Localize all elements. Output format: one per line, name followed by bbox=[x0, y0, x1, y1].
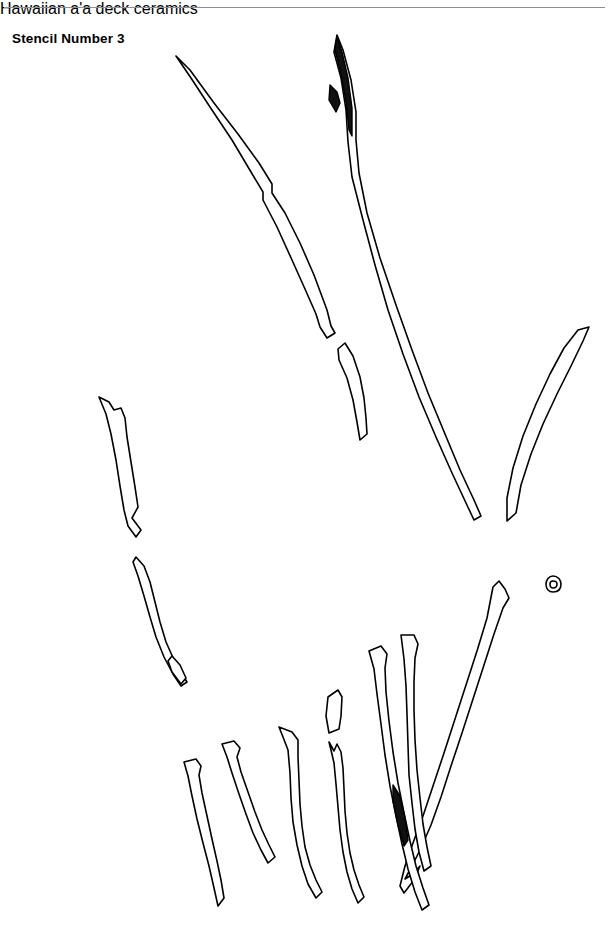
fragment-long-sliver-bottom-right bbox=[400, 581, 509, 893]
fragment-small-quad-bottom bbox=[326, 690, 342, 733]
fragment-sliver-bottom-extra bbox=[168, 656, 186, 684]
fragment-sliver-bottom-2 bbox=[222, 741, 275, 863]
fragment-sliver-bottom-4 bbox=[369, 646, 429, 910]
fragment-short-sliver-center bbox=[338, 343, 367, 440]
fragment-sliver-bottom-3 bbox=[279, 727, 322, 898]
stencil-line-art bbox=[0, 0, 613, 937]
fragment-needle-bottom-center bbox=[329, 742, 364, 903]
fragment-sliver-bottom-1 bbox=[184, 759, 224, 906]
fragment-long-sliver-upper-left bbox=[176, 56, 335, 338]
fragment-sliver-left-upper bbox=[99, 397, 141, 537]
stencil-figure-plate bbox=[0, 0, 613, 937]
fragment-dark-notch-upper-center bbox=[329, 85, 340, 112]
fragment-curved-sliver-right bbox=[507, 327, 589, 521]
fragment-long-sliver-upper-center bbox=[334, 35, 481, 520]
fragment-tiny-ring bbox=[546, 576, 561, 592]
